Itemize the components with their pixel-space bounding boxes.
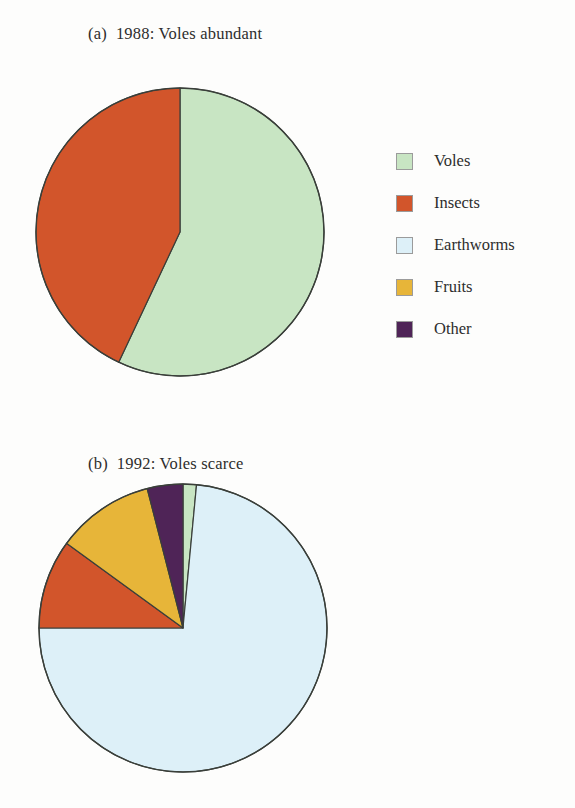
legend-swatch-earthworms-icon	[396, 237, 413, 254]
pie-chart-1992	[33, 478, 333, 778]
legend-item-voles[interactable]: Voles	[396, 140, 515, 182]
legend-swatch-insects-icon	[396, 195, 413, 212]
legend-label-other: Other	[434, 319, 472, 339]
legend-label-insects: Insects	[434, 193, 480, 213]
pie-chart-1988-svg	[30, 82, 330, 382]
legend-label-voles: Voles	[434, 151, 470, 171]
legend-swatch-voles-icon	[396, 153, 413, 170]
panel-tag: (b)	[88, 454, 108, 473]
panel-1988: (a)1988: Voles abundant Voles Insects Ea…	[0, 0, 575, 430]
legend-item-fruits[interactable]: Fruits	[396, 266, 515, 308]
pie-chart-1988	[30, 82, 330, 382]
panel-title-text: 1988: Voles abundant	[116, 24, 262, 43]
legend-item-other[interactable]: Other	[396, 308, 515, 350]
legend-label-earthworms: Earthworms	[434, 235, 515, 255]
legend-item-insects[interactable]: Insects	[396, 182, 515, 224]
legend-label-fruits: Fruits	[434, 277, 473, 297]
panel-title-text: 1992: Voles scarce	[117, 454, 244, 473]
legend-1988: Voles Insects Earthworms Fruits Other	[396, 140, 515, 350]
panel-title-1992: (b)1992: Voles scarce	[88, 454, 244, 474]
pie-chart-1992-svg	[33, 478, 333, 778]
panel-tag: (a)	[88, 24, 107, 43]
legend-item-earthworms[interactable]: Earthworms	[396, 224, 515, 266]
legend-swatch-other-icon	[396, 321, 413, 338]
panel-title-1988: (a)1988: Voles abundant	[88, 24, 262, 44]
panel-1992: (b)1992: Voles scarce Voles Earthworms I…	[0, 430, 575, 808]
legend-swatch-fruits-icon	[396, 279, 413, 296]
